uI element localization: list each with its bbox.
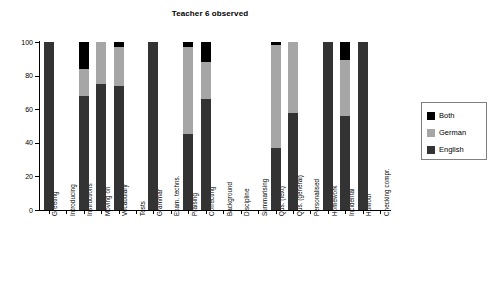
x-axis-tick	[328, 211, 329, 214]
legend-swatch-icon	[427, 112, 435, 120]
x-axis-tick	[258, 211, 259, 214]
x-axis-tick	[66, 211, 67, 214]
legend-swatch-icon	[427, 129, 435, 137]
bar-segment-german	[79, 69, 89, 96]
bar-segment-german	[340, 60, 350, 115]
legend-item-german: German	[427, 128, 466, 137]
bar-stack	[201, 42, 211, 210]
bar-stack	[271, 42, 281, 210]
x-axis-tick	[223, 211, 224, 214]
bar-stack	[288, 42, 298, 210]
bar-segment-english	[323, 42, 333, 210]
bar-stack	[96, 42, 106, 210]
bar-segment-german	[201, 62, 211, 99]
x-axis-tick	[101, 211, 102, 214]
bar-segment-english	[358, 42, 368, 210]
bar-segment-german	[271, 45, 281, 147]
y-axis-tick	[35, 176, 39, 177]
y-axis-label: 80	[3, 72, 33, 79]
legend-label: English	[439, 146, 464, 154]
x-axis-tick	[363, 211, 364, 214]
bar-stack	[44, 42, 54, 210]
bar-segment-both	[114, 42, 124, 47]
bar-segment-english	[96, 84, 106, 210]
y-axis-label: 40	[3, 139, 33, 146]
y-axis-label: 0	[3, 207, 33, 214]
bar-segment-english	[114, 86, 124, 210]
bar-segment-english	[340, 116, 350, 210]
y-axis-label: 20	[3, 173, 33, 180]
bar-segment-english	[201, 99, 211, 210]
x-axis-tick	[188, 211, 189, 214]
bar-segment-english	[271, 148, 281, 210]
legend-label: German	[439, 129, 466, 137]
bar-stack	[340, 42, 350, 210]
bar-stack	[114, 42, 124, 210]
x-axis-tick	[276, 211, 277, 214]
x-axis-tick	[84, 211, 85, 214]
bar-segment-german	[288, 42, 298, 113]
x-axis-tick	[206, 211, 207, 214]
bar-segment-english	[288, 113, 298, 210]
legend-item-both: Both	[427, 111, 454, 120]
plot-area	[40, 42, 389, 210]
y-axis-tick	[35, 76, 39, 77]
x-axis-tick	[49, 211, 50, 214]
bar-segment-both	[79, 42, 89, 69]
bar-segment-both	[340, 42, 350, 60]
chart-container: Teacher 6 observed 020406080100 Greeting…	[0, 0, 497, 293]
bar-segment-both	[183, 42, 193, 47]
bar-segment-english	[183, 134, 193, 210]
bar-segment-both	[271, 42, 281, 45]
bar-stack	[358, 42, 368, 210]
y-axis-tick	[35, 42, 39, 43]
x-axis-tick	[136, 211, 137, 214]
x-axis-tick	[171, 211, 172, 214]
bar-segment-both	[201, 42, 211, 62]
bar-stack	[148, 42, 158, 210]
x-axis-tick	[345, 211, 346, 214]
x-axis-tick	[380, 211, 381, 214]
bar-segment-english	[79, 96, 89, 210]
bar-segment-german	[96, 42, 106, 84]
bar-stack	[79, 42, 89, 210]
bar-segment-german	[183, 47, 193, 134]
x-axis-tick	[293, 211, 294, 214]
legend-item-english: English	[427, 145, 464, 154]
bar-segment-english	[44, 42, 54, 210]
x-axis-tick	[153, 211, 154, 214]
x-axis-tick	[241, 211, 242, 214]
bar-stack	[323, 42, 333, 210]
x-axis-tick	[310, 211, 311, 214]
bar-stack	[183, 42, 193, 210]
bar-segment-german	[114, 47, 124, 86]
y-axis-label: 100	[3, 39, 33, 46]
y-axis-tick	[35, 109, 39, 110]
legend-label: Both	[439, 112, 454, 120]
chart-title: Teacher 6 observed	[0, 9, 420, 18]
y-axis-tick	[35, 143, 39, 144]
chart-legend: BothGermanEnglish	[421, 102, 487, 160]
x-axis-tick	[119, 211, 120, 214]
legend-swatch-icon	[427, 146, 435, 154]
y-axis-label: 60	[3, 106, 33, 113]
y-axis-tick	[35, 210, 39, 211]
bar-segment-english	[148, 42, 158, 210]
